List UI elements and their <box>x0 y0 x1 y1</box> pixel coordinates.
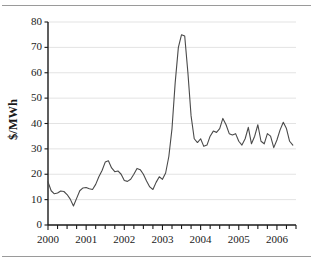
x-tick-label: 2002 <box>104 233 144 245</box>
y-tick-label: 80 <box>8 15 42 27</box>
y-tick-label: 70 <box>8 40 42 52</box>
x-tick-label: 2004 <box>181 233 221 245</box>
y-tick-label: 0 <box>8 218 42 230</box>
y-tick-label: 30 <box>8 142 42 154</box>
y-tick-label: 50 <box>8 91 42 103</box>
y-tick-label: 40 <box>8 117 42 129</box>
x-tick-label: 2005 <box>219 233 259 245</box>
y-tick-label: 20 <box>8 167 42 179</box>
x-tick-label: 2000 <box>28 233 68 245</box>
y-tick-label: 10 <box>8 193 42 205</box>
x-tick-label: 2003 <box>142 233 182 245</box>
x-tick-label: 2006 <box>257 233 297 245</box>
line-chart-plot <box>0 0 313 266</box>
data-series-line <box>48 35 293 206</box>
grid-lines <box>48 22 296 200</box>
y-tick-label: 60 <box>8 66 42 78</box>
x-tick-label: 2001 <box>66 233 106 245</box>
chart-figure: $/MWh 01020304050607080 2000200120022003… <box>0 0 313 266</box>
